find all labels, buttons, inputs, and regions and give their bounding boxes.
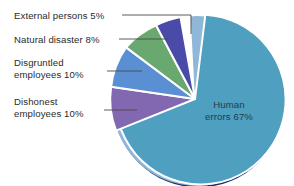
pie-label-natural-disaster: Natural disaster 8% (14, 34, 100, 45)
pie-callout-labels: External persons 5% Natural disaster 8% … (14, 10, 105, 119)
pie-label-disgruntled-employees-line1: Disgruntled (14, 57, 64, 68)
pie-chart-svg: External persons 5% Natural disaster 8% … (0, 0, 294, 186)
pie-label-dishonest-employees-line2: employees 10% (14, 108, 84, 119)
pie-label-dishonest-employees-line1: Dishonest (14, 96, 58, 107)
pie-label-external-persons: External persons 5% (14, 10, 105, 21)
pie-chart-figure: External persons 5% Natural disaster 8% … (0, 0, 294, 186)
pie-label-disgruntled-employees-line2: employees 10% (14, 69, 84, 80)
pie-label-human-errors-line1: Human (213, 99, 244, 110)
pie-label-human-errors-line2: errors 67% (205, 111, 253, 122)
